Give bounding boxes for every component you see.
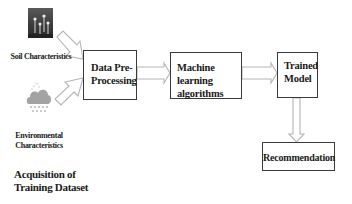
- node-trained-model: Trained Model: [277, 52, 318, 98]
- acquisition-label-line2: Training Dataset: [14, 181, 80, 194]
- arrow-environment-to-preprocess: [55, 78, 83, 105]
- acquisition-training-dataset-label: Acquisition of Training Dataset: [2, 168, 80, 194]
- soil-photo-icon: [28, 8, 53, 38]
- node-recommendation: Recommendation: [262, 142, 335, 171]
- node-preprocess-line1: Data Pre-: [91, 61, 136, 74]
- soil-characteristics-label: Soil Characteristics: [8, 52, 74, 61]
- acquisition-label-line1: Acquisition of: [14, 168, 80, 181]
- node-recommendation-label: Recommendation: [263, 151, 334, 164]
- arrow-ml-to-model: [242, 63, 277, 83]
- node-machine-learning-algorithms: Machine learning algorithms: [170, 52, 242, 99]
- node-ml-line2: algorithms: [177, 87, 241, 100]
- plant-sprouts-icon: [28, 8, 53, 38]
- rain-cloud-icon: [24, 80, 54, 116]
- environmental-label-line1: Environmental: [6, 131, 72, 141]
- node-data-preprocessing: Data Pre- Processing: [83, 50, 137, 100]
- arrow-preprocess-to-ml: [137, 63, 170, 83]
- arrow-model-to-recommendation: [289, 98, 304, 142]
- node-model-line1: Trained: [284, 59, 317, 72]
- environmental-label-line2: Characteristics: [6, 141, 72, 151]
- node-ml-line1: Machine learning: [177, 61, 241, 87]
- node-model-line2: Model: [284, 72, 317, 85]
- environmental-characteristics-label: Environmental Characteristics: [6, 131, 72, 150]
- node-preprocess-line2: Processing: [91, 74, 136, 87]
